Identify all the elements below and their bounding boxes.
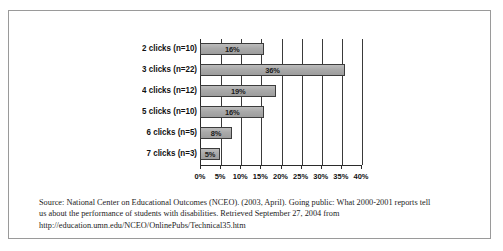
gridline [282,39,283,165]
category-label: 5 clicks (n=10) [121,107,197,116]
gridline [322,39,323,165]
gridline [261,39,262,165]
gridline [342,39,343,165]
category-label: 7 clicks (n=3) [121,149,197,158]
bar-value-label: 16% [225,108,239,117]
x-tick [341,165,342,169]
caption-line-3: http://education.umn.edu/NCEO/OnlinePubs… [39,220,469,231]
bar: 36% [200,64,345,76]
x-tick-label: 15% [253,172,268,181]
x-tick-label: 30% [313,172,328,181]
category-label: 2 clicks (n=10) [121,44,197,53]
category-label: 6 clicks (n=5) [121,128,197,137]
bar-value-label: 19% [231,87,245,96]
x-tick-label: 25% [293,172,308,181]
x-tick-label: 35% [333,172,348,181]
bar-value-label: 36% [265,66,279,75]
figure-frame: 2 clicks (n=10)3 clicks (n=22)4 clicks (… [8,10,491,239]
category-label: 4 clicks (n=12) [121,86,197,95]
x-tick-label: 40% [353,172,368,181]
x-tick [281,165,282,169]
bar-value-label: 16% [225,45,239,54]
gridline [221,39,222,165]
plot-area [200,39,361,165]
gridline [362,39,363,165]
caption-line-1: Source: National Center on Educational O… [39,197,469,208]
caption-line-2: us about the performance of students wit… [39,208,469,219]
bar-chart: 2 clicks (n=10)3 clicks (n=22)4 clicks (… [9,17,490,185]
x-tick [240,165,241,169]
bar: 16% [200,43,264,55]
x-tick-label: 20% [273,172,288,181]
x-tick [220,165,221,169]
gridline [302,39,303,165]
bar: 5% [200,148,220,160]
source-caption: Source: National Center on Educational O… [39,197,469,231]
bar-value-label: 8% [211,129,221,138]
bar: 16% [200,106,264,118]
x-tick-label: 5% [215,172,226,181]
category-label: 3 clicks (n=22) [121,65,197,74]
x-tick-label: 10% [233,172,248,181]
x-tick [200,165,201,169]
x-tick [361,165,362,169]
bar: 19% [200,85,276,97]
bar: 8% [200,127,232,139]
gridline [241,39,242,165]
x-tick [301,165,302,169]
bar-value-label: 5% [205,150,215,159]
x-tick [321,165,322,169]
x-tick [260,165,261,169]
x-tick-label: 0% [195,172,206,181]
